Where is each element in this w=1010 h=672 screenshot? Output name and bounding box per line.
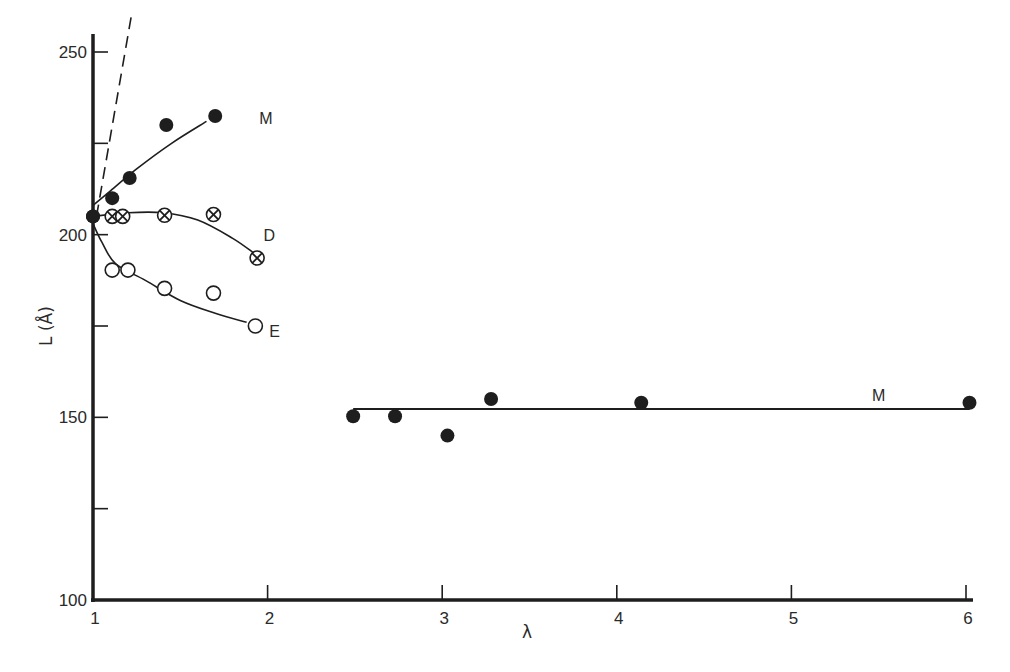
y-tick-label: 250 (59, 43, 87, 62)
filled-circle-marker (86, 209, 100, 223)
open-circle-marker (158, 281, 172, 295)
data-points (86, 109, 976, 443)
crossed-circle-marker (116, 209, 130, 223)
x-tick-label: 1 (90, 609, 99, 628)
crossed-circle-marker (206, 208, 220, 222)
filled-circle-marker (123, 171, 137, 185)
fit-curves (93, 121, 969, 409)
crossed-circle-marker (158, 208, 172, 222)
filled-circle-marker (484, 392, 498, 406)
y-tick-label: 150 (59, 408, 87, 427)
filled-circle-marker (962, 396, 976, 410)
filled-circle-marker (208, 109, 222, 123)
series-label-e: E (269, 323, 280, 340)
x-tick-label: 3 (439, 609, 448, 628)
y-tick-label: 200 (59, 226, 87, 245)
series-label-m: M (259, 110, 272, 127)
dashed-reference-line (96, 15, 131, 216)
x-axis-label: λ (522, 622, 532, 642)
axes: 100150200250123456λL (Å) (35, 34, 973, 642)
x-tick-label: 4 (614, 609, 623, 628)
series-label-m: M (872, 387, 885, 404)
open-circle-marker (105, 263, 119, 277)
y-tick-label: 100 (59, 591, 87, 610)
filled-circle-marker (634, 396, 648, 410)
dashed-line (96, 15, 131, 216)
open-circle-marker (206, 286, 220, 300)
crossed-circle-marker (250, 251, 264, 265)
filled-circle-marker (388, 409, 402, 423)
filled-circle-marker (440, 429, 454, 443)
chart: 100150200250123456λL (Å) MDEM (0, 0, 1010, 672)
open-circle-marker (248, 319, 262, 333)
series-labels: MDEM (259, 110, 885, 405)
filled-circle-marker (346, 409, 360, 423)
x-tick-label: 2 (265, 609, 274, 628)
x-tick-label: 5 (789, 609, 798, 628)
open-circle-marker (121, 263, 135, 277)
filled-circle-marker (159, 118, 173, 132)
x-tick-label: 6 (963, 609, 972, 628)
filled-circle-marker (105, 191, 119, 205)
y-axis-label: L (Å) (35, 306, 56, 346)
series-label-d: D (264, 227, 276, 244)
